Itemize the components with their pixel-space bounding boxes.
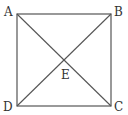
- intersection-label-e: E: [61, 68, 70, 82]
- vertex-label-b: B: [114, 5, 123, 19]
- square-diagram: A B C D E: [0, 0, 128, 115]
- vertex-label-a: A: [3, 5, 13, 19]
- vertex-label-d: D: [3, 100, 13, 114]
- vertex-label-c: C: [114, 100, 123, 114]
